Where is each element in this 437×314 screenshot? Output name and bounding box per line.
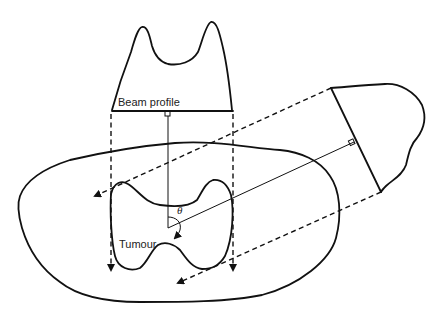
beam-profile-rotated-baseline — [331, 88, 381, 192]
central-axis-rotated — [168, 142, 354, 228]
beam-profile-rotated — [331, 84, 424, 192]
beam-edge-lower-oblique — [178, 192, 381, 283]
tumour-outline — [111, 180, 233, 270]
beam-diagram: θ Beam profile Tumour — [0, 0, 437, 314]
theta-label: θ — [177, 204, 183, 216]
tumour-label: Tumour — [119, 238, 157, 250]
beam-profile-label: Beam profile — [118, 96, 180, 108]
